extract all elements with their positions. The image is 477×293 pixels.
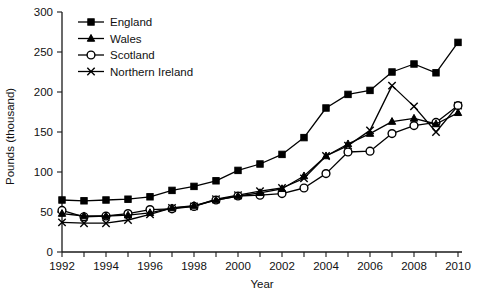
legend-label: England	[110, 16, 152, 28]
legend-item-northern-ireland: Northern Ireland	[78, 66, 193, 78]
data-point-marker-filled-square	[191, 183, 197, 189]
x-tick-label: 1996	[137, 260, 163, 272]
data-point-marker-filled-square	[147, 194, 153, 200]
x-axis-ticks	[62, 252, 458, 257]
data-point-marker-open-circle	[366, 147, 374, 155]
data-point-marker-open-circle	[87, 51, 95, 59]
series-path	[62, 86, 458, 224]
chart-container: 050100150200250300 Pounds (thousand) 199…	[0, 0, 477, 293]
legend-item-england: England	[78, 16, 152, 28]
data-point-marker-filled-square	[345, 91, 351, 97]
data-point-marker-filled-square	[411, 61, 417, 67]
x-tick-label: 2010	[445, 260, 471, 272]
y-tick-label: 50	[40, 206, 53, 218]
data-point-marker-cross	[410, 103, 417, 110]
data-point-marker-open-circle	[300, 184, 308, 192]
y-axis-tick-labels: 050100150200250300	[34, 6, 53, 258]
y-axis: 050100150200250300 Pounds (thousand)	[4, 6, 62, 258]
data-point-marker-filled-square	[323, 105, 329, 111]
data-point-marker-filled-square	[257, 161, 263, 167]
legend-label: Wales	[110, 33, 142, 45]
data-point-marker-cross	[388, 82, 395, 89]
series-northern-ireland	[58, 82, 461, 227]
data-point-marker-filled-square	[389, 69, 395, 75]
data-point-marker-filled-square	[235, 167, 241, 173]
data-point-marker-filled-square	[88, 19, 94, 25]
y-tick-label: 250	[34, 46, 53, 58]
y-tick-label: 0	[47, 246, 53, 258]
data-point-marker-filled-triangle	[410, 114, 417, 121]
x-tick-label: 1992	[49, 260, 75, 272]
data-point-marker-filled-triangle	[87, 34, 94, 41]
data-point-marker-filled-square	[279, 151, 285, 157]
y-tick-label: 150	[34, 126, 53, 138]
data-point-marker-filled-triangle	[454, 109, 461, 116]
legend-label: Northern Ireland	[110, 66, 193, 78]
y-axis-title: Pounds (thousand)	[4, 88, 16, 185]
y-tick-label: 100	[34, 166, 53, 178]
line-chart: 050100150200250300 Pounds (thousand) 199…	[0, 0, 477, 293]
data-point-marker-filled-square	[455, 39, 461, 45]
chart-legend: EnglandWalesScotlandNorthern Ireland	[78, 16, 193, 78]
series-england	[59, 39, 461, 204]
data-point-marker-filled-square	[213, 178, 219, 184]
legend-item-wales: Wales	[78, 33, 142, 45]
data-point-marker-filled-square	[103, 197, 109, 203]
data-point-marker-open-circle	[388, 130, 396, 138]
x-tick-label: 2008	[401, 260, 427, 272]
data-point-marker-cross	[432, 128, 439, 135]
y-tick-label: 200	[34, 86, 53, 98]
x-axis-tick-labels: 1992199419961998200020022004200620082010	[49, 260, 471, 272]
x-tick-label: 2006	[357, 260, 383, 272]
x-tick-label: 2000	[225, 260, 251, 272]
data-point-marker-filled-square	[59, 197, 65, 203]
data-point-marker-filled-square	[169, 187, 175, 193]
data-point-marker-open-circle	[322, 170, 330, 178]
data-point-marker-open-circle	[344, 148, 352, 156]
data-point-marker-open-circle	[410, 122, 418, 130]
x-tick-label: 1994	[93, 260, 119, 272]
legend-item-scotland: Scotland	[78, 49, 155, 61]
x-axis: 1992199419961998200020022004200620082010…	[49, 252, 471, 290]
data-point-marker-filled-square	[301, 134, 307, 140]
x-tick-label: 1998	[181, 260, 207, 272]
x-axis-title: Year	[250, 278, 273, 290]
data-point-marker-filled-square	[367, 87, 373, 93]
x-tick-label: 2004	[313, 260, 339, 272]
data-point-marker-filled-square	[433, 70, 439, 76]
data-point-marker-filled-square	[125, 196, 131, 202]
data-point-marker-filled-square	[81, 198, 87, 204]
y-tick-label: 300	[34, 6, 53, 18]
x-tick-label: 2002	[269, 260, 295, 272]
legend-label: Scotland	[110, 49, 155, 61]
